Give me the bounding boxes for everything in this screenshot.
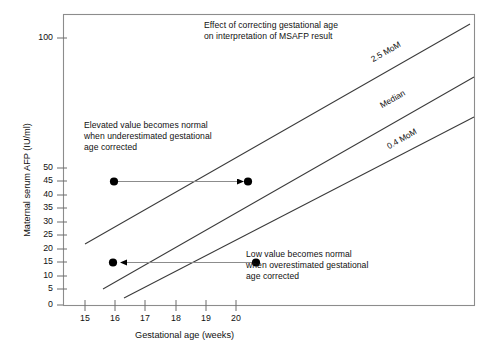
x-tick-label-20: 20 [225,313,247,323]
x-tick-label-17: 17 [134,313,156,323]
elevated-value-note: Elevated value becomes normalwhen undere… [84,120,212,154]
low-note-line3: age corrected [246,271,299,281]
elevated-note-line2: when underestimated gestational [84,131,212,141]
marker-elevated-point-uncorrected [110,177,118,185]
low-value-note: Low value becomes normalwhen overestimat… [246,249,368,283]
chart-title-line1: Effect of correcting gestational age [204,20,338,30]
x-tick-label-18: 18 [165,313,187,323]
marker-low-point-corrected [109,258,117,266]
elevated-note-line3: age corrected [84,142,137,152]
x-axis-title: Gestational age (weeks) [135,330,234,340]
y-tick-label-10: 10 [27,270,53,280]
x-tick-label-19: 19 [195,313,217,323]
marker-elevated-point-corrected [244,177,252,185]
y-tick-label-0: 0 [27,299,53,309]
low-note-line2: when overestimated gestational [246,260,368,270]
chart-title-line2: on interpretation of MSAFP result [204,31,333,41]
low-note-line1: Low value becomes normal [246,249,352,259]
y-axis-ticks [57,38,67,305]
chart-title: Effect of correcting gestational ageon i… [204,20,338,42]
elevated-note-line1: Elevated value becomes normal [84,120,208,130]
plot-canvas [0,0,492,355]
y-axis-title: Maternal serum AFP (IU/ml) [22,90,32,270]
x-tick-label-16: 16 [104,313,126,323]
y-tick-label-100: 100 [27,32,53,42]
chart-figure: Effect of correcting gestational ageon i… [0,0,492,355]
x-tick-label-15: 15 [74,313,96,323]
y-tick-label-5: 5 [27,283,53,293]
